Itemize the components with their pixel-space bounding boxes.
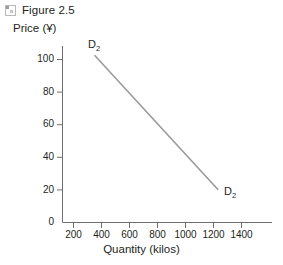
curve-label-subscript: 2: [232, 191, 236, 200]
y-axis-title: Price (¥): [13, 22, 56, 34]
figure-caption: Figure 2.5: [22, 4, 75, 16]
x-tick-label-800: 800: [145, 229, 170, 240]
curve-label-subscript: 2: [96, 44, 100, 53]
curve-label-d2-bottom: D2: [224, 185, 236, 200]
x-tick-label-1400: 1400: [227, 229, 256, 240]
x-axis-ticks: [74, 223, 242, 229]
x-axis-title: Quantity (kilos): [0, 243, 283, 255]
x-tick-label-1000: 1000: [171, 229, 200, 240]
x-tick-label-400: 400: [89, 229, 114, 240]
y-tick-label-100: 100: [30, 53, 54, 64]
curve-label-letter: D: [88, 38, 96, 50]
curve-label-d2-top: D2: [88, 38, 100, 53]
y-axis-ticks: [57, 60, 63, 190]
y-tick-label-60: 60: [30, 118, 54, 129]
y-tick-label-0: 0: [30, 216, 54, 227]
x-tick-label-200: 200: [61, 229, 86, 240]
figure-header: Figure 2.5: [0, 0, 283, 20]
y-tick-label-80: 80: [30, 86, 54, 97]
demand-curve-d2: [95, 56, 218, 190]
x-tick-label-600: 600: [117, 229, 142, 240]
y-tick-label-40: 40: [30, 151, 54, 162]
y-tick-label-20: 20: [30, 184, 54, 195]
x-tick-label-1200: 1200: [199, 229, 228, 240]
image-placeholder-icon: [5, 5, 16, 16]
curve-label-letter: D: [224, 185, 232, 197]
